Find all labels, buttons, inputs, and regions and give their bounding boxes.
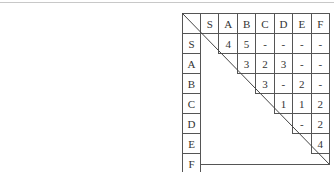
empty-cell [237, 94, 255, 114]
value-cell: 2 [256, 54, 274, 74]
empty-cell [237, 134, 255, 154]
value-cell: - [311, 74, 329, 94]
empty-cell [219, 154, 237, 173]
empty-cell [237, 154, 255, 173]
value-cell: 1 [293, 94, 311, 114]
value-cell: 2 [311, 94, 329, 114]
column-header: E [293, 14, 311, 34]
value-cell: - [311, 34, 329, 54]
table-row: B 3 - 2 - [183, 74, 330, 94]
column-header: B [237, 14, 255, 34]
empty-cell [219, 54, 237, 74]
empty-cell [311, 154, 329, 173]
empty-cell [293, 154, 311, 173]
empty-cell [201, 154, 219, 173]
row-header: S [183, 34, 201, 54]
value-cell: - [256, 34, 274, 54]
empty-cell [256, 134, 274, 154]
empty-cell [237, 74, 255, 94]
column-header: A [219, 14, 237, 34]
empty-cell [237, 114, 255, 134]
table-row: S 4 5 - - - - [183, 34, 330, 54]
table-row: C 1 1 2 [183, 94, 330, 114]
empty-cell [201, 74, 219, 94]
top-rule [0, 2, 334, 3]
value-cell: 5 [237, 34, 255, 54]
table-row: E 4 [183, 134, 330, 154]
row-header: C [183, 94, 201, 114]
table-row: D - 2 [183, 114, 330, 134]
empty-cell [201, 114, 219, 134]
corner-cell [183, 14, 201, 34]
row-header: F [183, 154, 201, 173]
table-row: F [183, 154, 330, 173]
value-cell: 4 [311, 134, 329, 154]
distance-table: S A B C D E F S 4 5 - - - - A 3 2 3 - [182, 13, 330, 165]
value-cell: 2 [311, 114, 329, 134]
empty-cell [256, 94, 274, 114]
value-cell: - [274, 74, 292, 94]
value-cell: - [274, 34, 292, 54]
empty-cell [219, 94, 237, 114]
row-header: D [183, 114, 201, 134]
empty-cell [274, 134, 292, 154]
value-cell: 4 [219, 34, 237, 54]
column-header: F [311, 14, 329, 34]
empty-cell [219, 114, 237, 134]
empty-cell [201, 134, 219, 154]
value-cell: - [311, 54, 329, 74]
value-cell: 2 [293, 74, 311, 94]
empty-cell [201, 34, 219, 54]
column-header: C [256, 14, 274, 34]
empty-cell [256, 154, 274, 173]
column-header: D [274, 14, 292, 34]
value-cell: - [293, 114, 311, 134]
empty-cell [201, 54, 219, 74]
distance-matrix: S A B C D E F S 4 5 - - - - A 3 2 3 - [182, 13, 330, 172]
empty-cell [201, 94, 219, 114]
empty-cell [219, 74, 237, 94]
row-header: E [183, 134, 201, 154]
header-row: S A B C D E F [183, 14, 330, 34]
value-cell: 3 [274, 54, 292, 74]
empty-cell [293, 134, 311, 154]
table-row: A 3 2 3 - - [183, 54, 330, 74]
column-header: S [201, 14, 219, 34]
empty-cell [274, 114, 292, 134]
value-cell: - [293, 34, 311, 54]
row-header: B [183, 74, 201, 94]
row-header: A [183, 54, 201, 74]
empty-cell [219, 134, 237, 154]
value-cell: 1 [274, 94, 292, 114]
empty-cell [256, 114, 274, 134]
value-cell: 3 [256, 74, 274, 94]
empty-cell [274, 154, 292, 173]
value-cell: 3 [237, 54, 255, 74]
value-cell: - [293, 54, 311, 74]
